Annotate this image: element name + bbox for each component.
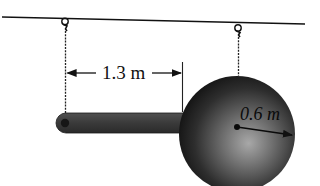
- pendulum-diagram: [0, 0, 320, 186]
- pivot-pin-icon: [61, 119, 69, 127]
- solid-sphere: [179, 76, 295, 186]
- slender-rod: [56, 113, 200, 133]
- left-hook-icon: [62, 18, 68, 31]
- right-hook-icon: [235, 25, 241, 37]
- rod-length-label: 1.3 m: [100, 63, 147, 82]
- sphere-radius-label: 0.6 m: [240, 105, 280, 123]
- ceiling-line: [2, 17, 305, 24]
